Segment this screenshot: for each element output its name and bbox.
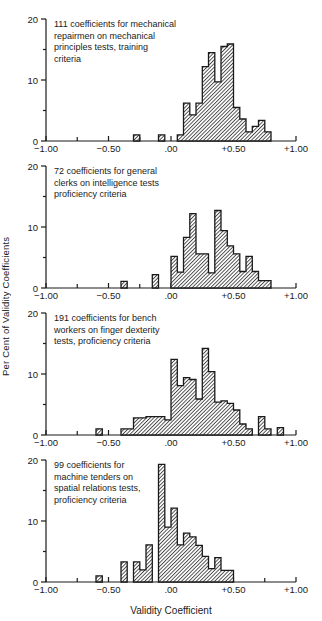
y-tick-label: 0 xyxy=(33,283,38,294)
panel-mechanical-repairmen: −1.00−0.50.00+0.50+1.0001020 111 coeffic… xyxy=(0,16,322,163)
x-tick-label: +1.00 xyxy=(284,143,308,154)
histogram-group xyxy=(134,545,153,582)
y-tick-label: 10 xyxy=(27,516,38,527)
x-tick-label: +0.50 xyxy=(221,584,245,595)
histogram-group xyxy=(96,429,102,435)
panel-title: 191 coefficients for bench workers on fi… xyxy=(54,313,224,348)
x-tick-label: −0.50 xyxy=(96,290,120,301)
x-axis-label: Validity Coefficient xyxy=(46,605,296,616)
x-tick-label: −0.50 xyxy=(96,437,120,448)
histogram-group xyxy=(152,275,158,288)
y-tick-label: 10 xyxy=(27,222,38,233)
histogram-group xyxy=(121,281,127,288)
x-tick-label: +1.00 xyxy=(284,290,308,301)
x-tick-label: +0.50 xyxy=(221,437,245,448)
panel-title: 72 coefficients for general clerks on in… xyxy=(54,166,224,201)
histogram-group xyxy=(134,135,140,141)
histogram-group xyxy=(159,135,165,141)
histogram-group xyxy=(277,428,283,435)
x-tick-label: −0.50 xyxy=(96,584,120,595)
panel-title: 99 coefficients for machine tenders on s… xyxy=(54,460,224,507)
panel-title: 111 coefficients for mechanical repairme… xyxy=(54,19,224,66)
y-tick-label: 0 xyxy=(33,577,38,588)
y-tick-label: 20 xyxy=(27,310,38,319)
x-tick-label: +1.00 xyxy=(284,584,308,595)
x-tick-label: +0.50 xyxy=(221,290,245,301)
x-tick-label: .00 xyxy=(164,584,177,595)
x-tick-label: .00 xyxy=(164,290,177,301)
histogram-group xyxy=(259,417,272,435)
y-tick-label: 20 xyxy=(27,163,38,172)
histogram-bars xyxy=(96,348,284,435)
y-tick-label: 20 xyxy=(27,16,38,25)
histogram-bars xyxy=(121,211,271,289)
x-tick-label: .00 xyxy=(164,437,177,448)
x-tick-label: .00 xyxy=(164,143,177,154)
panel-general-clerks: −1.00−0.50.00+0.50+1.0001020 72 coeffici… xyxy=(0,163,322,310)
validity-coefficient-histograms-figure: Per Cent of Validity Coefficients −1.00−… xyxy=(0,0,322,621)
y-tick-label: 0 xyxy=(33,136,38,147)
panel-machine-tenders: −1.00−0.50.00+0.50+1.0001020 99 coeffici… xyxy=(0,457,322,604)
y-tick-label: 20 xyxy=(27,457,38,466)
histogram-group xyxy=(96,576,102,582)
histogram-group xyxy=(121,348,252,435)
y-tick-label: 10 xyxy=(27,369,38,380)
histogram-group xyxy=(121,562,127,582)
histogram-group xyxy=(171,211,271,289)
x-tick-label: +1.00 xyxy=(284,437,308,448)
x-tick-label: −0.50 xyxy=(96,143,120,154)
y-tick-label: 0 xyxy=(33,430,38,441)
y-tick-label: 10 xyxy=(27,75,38,86)
x-tick-label: +0.50 xyxy=(221,143,245,154)
panel-bench-workers: −1.00−0.50.00+0.50+1.0001020 191 coeffic… xyxy=(0,310,322,457)
